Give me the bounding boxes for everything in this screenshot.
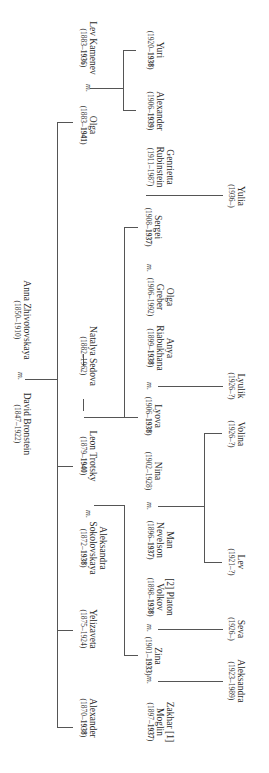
person-alexander-bronstein: Alexander (1870–1938) [78,698,98,738]
person-name: Aleksandra [98,521,108,574]
person-yulia: Yulia (1936–) [226,184,246,208]
connector-line [158,629,223,630]
marriage-marker: m. [145,676,154,684]
person-olga-bronstein: Olga (1883–1941) [78,106,98,145]
person-natalya-sedova: Natalya Sedova (1882–1962) [78,326,98,386]
person-dates: (1936–) [226,184,236,208]
person-anya-riabukhana: Anya Riabukhana (1899–1938) [145,325,175,370]
person-name: Seva [236,617,246,641]
connector-line [90,88,123,89]
person-dates: (1902–1928) [143,452,153,491]
person-aleksandra-moglin: Aleksandra (1923–1989) [226,659,246,702]
person-yelizaveta: Yelizaveta (1875–1924) [78,609,98,649]
connector-line [25,379,57,380]
person-dates: (1911–1987) [145,146,155,187]
connector-line [123,50,124,111]
person-dates: (1883–1941) [78,106,88,145]
person-dates: (1879–1940) [78,431,88,482]
person-name: Lyulik [236,372,246,399]
connector-line [123,50,136,51]
person-name: Yuri [155,31,165,70]
person-alexander-kamenev: Alexander (1906–1939) [145,91,165,131]
person-leon-trotsky: Leon Trotsky (1879–1940) [78,431,98,482]
person-dates: (1898–1938) [145,578,155,617]
family-tree-diagram: m. m. m. m. m. m. m. m. David Bronstein … [0,0,269,773]
person-olga-greber: Olga Greber (1906–1992) [145,278,175,317]
person-name: Anya [165,325,175,370]
person-name: Genrietta [165,146,175,187]
connector-line [94,505,124,506]
connector-line [204,433,222,434]
connector-line [124,227,138,228]
connector-line [57,727,73,728]
connector-line [124,417,138,418]
person-name: Zakhar [1] [165,702,175,742]
person-yuri: Yuri (1920–1938) [145,31,165,70]
person-dates: (1882–1962) [78,326,88,386]
person-name: Greber [155,278,165,317]
person-dates: (1896–1937) [145,521,155,560]
person-name: Volina [236,420,246,447]
person-dates: (1906–1938) [143,397,153,436]
person-dates: (1901–1933) [143,637,153,676]
person-name: Lyova [153,397,163,436]
person-lyova: Lyova (1906–1938) [143,397,163,436]
person-nina: Nina (1902–1928) [143,452,163,491]
person-name: Sokolovskaya [88,521,98,574]
person-name: Alexander [155,91,165,131]
person-name: Nevelson [155,521,165,560]
person-lev-kamenev: Lev Kamenev (1883–1936) [78,21,98,75]
person-name: Natalya Sedova [88,326,98,386]
connector-line [57,122,58,728]
person-dates: (1926–?) [226,420,236,447]
connector-line [83,399,84,411]
person-name: Olga [88,106,98,145]
connector-line [158,681,223,682]
person-dates: (1870–1938) [78,698,88,738]
marriage-marker: m. [145,502,154,510]
person-dates: (1872–1938) [78,521,88,574]
person-dates: (1906–1992) [145,278,155,317]
person-anna-zhivotovskaya: Anna Zhivotovskaya (1850–1910) [12,280,32,359]
person-genrietta-rubinstein: Genrietta Rubinstein (1911–1987) [145,146,175,187]
marriage-marker: m. [145,624,154,632]
person-name: Leon Trotsky [88,431,98,482]
connector-line [84,417,124,418]
person-name: Yelizaveta [88,609,98,649]
person-name: Sergei [153,208,163,247]
person-name: Nina [153,452,163,491]
person-name: [2] Platon [165,578,175,617]
person-lyulik: Lyulik (1926–?) [226,372,246,399]
person-dates: (1883–1936) [78,21,88,75]
connector-line [124,505,125,656]
person-dates: (1923–1989) [226,659,236,702]
person-name: Zina [153,637,163,676]
person-aleksandra-sokolovskaya: Aleksandra Sokolovskaya (1872–1938) [78,521,108,574]
marriage-marker: m. [16,372,25,380]
person-dates: (1906–1939) [145,91,155,131]
person-name: Volkov [155,578,165,617]
connector-line [204,562,222,563]
person-sergei: Sergei (1908–1937) [143,208,163,247]
person-man-nevelson: Man Nevelson (1896–1937) [145,521,175,560]
person-volina: Volina (1926–?) [226,420,246,447]
connector-line [57,122,73,123]
marriage-marker: m. [145,382,154,390]
person-dates: (1899–1938) [145,325,155,370]
person-name: Lev [236,548,246,575]
person-name: Alexander [88,698,98,738]
person-name: Man [165,521,175,560]
connector-line [124,227,125,418]
person-dates: (1920–1938) [145,31,155,70]
marriage-marker: m. [84,84,93,92]
person-seva: Seva (1926–) [226,617,246,641]
marriage-marker: m. [145,264,154,272]
person-name: Aleksandra [236,659,246,702]
person-name: Rubinstein [155,146,165,187]
person-name: Riabukhana [155,325,165,370]
person-name: Lev Kamenev [88,21,98,75]
person-zakhar-moglin: Zakhar [1] Moglin (1897–1937) [145,702,175,742]
person-dates: (1850–1910) [12,280,22,359]
marriage-marker: m. [84,510,93,518]
person-dates: (1908–1937) [143,208,153,247]
